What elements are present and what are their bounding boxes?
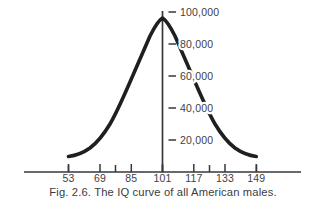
x-label-85: 85 (125, 172, 137, 182)
x-label-101: 101 (153, 172, 171, 182)
x-label-69: 69 (94, 172, 106, 182)
figure-container: 100,000 100,000 80,000 80,000 60,000 60,… (0, 0, 326, 210)
y-label-20000: 20,000 (180, 134, 213, 146)
x-label-133: 133 (216, 172, 234, 182)
x-axis-tick-labels: 53 69 85 101 117 133 149 (62, 172, 265, 182)
y-label-80000: 80,000 (180, 38, 213, 50)
x-axis-tickmarks (69, 164, 257, 172)
x-label-53: 53 (62, 172, 74, 182)
y-label-40000: 40,000 (180, 102, 213, 114)
chart-svg: 100,000 100,000 80,000 80,000 60,000 60,… (0, 0, 326, 182)
x-label-149: 149 (247, 172, 265, 182)
y-label-60000: 60,000 (180, 70, 213, 82)
figure-caption: Fig. 2.6. The IQ curve of all American m… (0, 186, 326, 198)
x-label-117: 117 (185, 172, 202, 182)
y-label-100000: 100,000 (180, 6, 219, 18)
y-axis-tick-labels: 100,000 100,000 80,000 80,000 60,000 60,… (180, 6, 219, 146)
iq-curve-chart: 100,000 100,000 80,000 80,000 60,000 60,… (0, 0, 326, 182)
